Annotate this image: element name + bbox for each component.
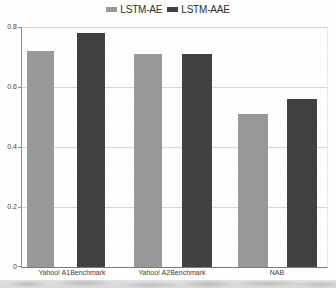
y-tick-label: 0.4 bbox=[0, 143, 17, 151]
bar-lstm-aae-group-3 bbox=[287, 99, 317, 267]
y-axis-tick bbox=[18, 266, 21, 267]
chart-legend: LSTM-AE LSTM-AAE bbox=[0, 4, 336, 15]
bar-lstm-ae-group-2 bbox=[134, 54, 162, 267]
y-axis-tick bbox=[18, 147, 21, 148]
legend-item-lstm-ae: LSTM-AE bbox=[106, 4, 162, 15]
y-tick-label: 0.6 bbox=[0, 83, 17, 91]
legend-swatch-lstm-ae bbox=[106, 7, 117, 12]
photo-noise-band bbox=[0, 280, 336, 288]
gridline-0.8 bbox=[22, 27, 327, 28]
gridline-0.4 bbox=[22, 147, 327, 148]
plot-area bbox=[21, 27, 328, 268]
gridline-0.6 bbox=[22, 87, 327, 88]
legend-swatch-lstm-aae bbox=[167, 7, 178, 12]
y-axis-tick bbox=[18, 87, 21, 88]
legend-item-lstm-aae: LSTM-AAE bbox=[167, 4, 229, 15]
bar-lstm-aae-group-2 bbox=[182, 54, 212, 267]
y-axis-tick bbox=[18, 27, 21, 28]
chart-screenshot: { "chart_data": { "type": "bar", "title"… bbox=[0, 0, 336, 288]
x-category-label: NAB bbox=[207, 269, 336, 276]
y-tick-label: 0.8 bbox=[0, 23, 17, 31]
bar-lstm-ae-group-3 bbox=[238, 114, 268, 267]
y-tick-label: 0.2 bbox=[0, 203, 17, 211]
gridline-0.2 bbox=[22, 207, 327, 208]
legend-label-lstm-aae: LSTM-AAE bbox=[181, 4, 229, 15]
legend-label-lstm-ae: LSTM-AE bbox=[120, 4, 162, 15]
bar-lstm-ae-group-1 bbox=[27, 51, 54, 267]
y-axis-tick bbox=[18, 207, 21, 208]
bar-lstm-aae-group-1 bbox=[77, 33, 105, 267]
